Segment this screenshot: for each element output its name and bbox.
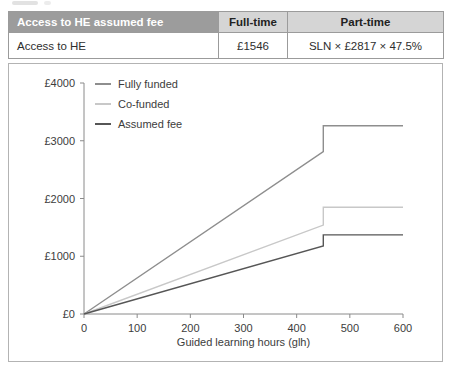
x-tick-label: 500 (341, 322, 359, 334)
line-chart: £0£1000£2000£3000£4000010020030040050060… (9, 64, 442, 361)
x-axis-label: Guided learning hours (glh) (177, 336, 310, 348)
legend-item-assumed-fee: Assumed fee (95, 114, 182, 134)
fee-table: Access to HE assumed fee Full-time Part-… (8, 11, 444, 59)
x-tick-label: 100 (128, 322, 146, 334)
table-title: Access to HE assumed fee (9, 12, 219, 33)
fee-table-header-row: Access to HE assumed fee Full-time Part-… (9, 12, 444, 33)
x-tick-label: 600 (394, 322, 412, 334)
chart-panel: £0£1000£2000£3000£4000010020030040050060… (8, 63, 443, 362)
series-fully-funded (84, 126, 403, 314)
column-header-part-time: Part-time (288, 12, 444, 33)
fully-funded-swatch (95, 83, 111, 85)
cropped-print-artifact (44, 1, 51, 5)
x-tick-label: 400 (287, 322, 305, 334)
y-tick-label: £0 (63, 308, 75, 320)
co-funded-swatch (95, 103, 111, 105)
fee-table-data-row: Access to HE £1546 SLN × £2817 × 47.5% (9, 33, 444, 59)
cropped-print-artifact (12, 1, 38, 5)
legend-item-co-funded: Co-funded (95, 94, 182, 114)
column-header-full-time: Full-time (219, 12, 288, 33)
part-time-fee-formula: SLN × £2817 × 47.5% (288, 33, 444, 59)
x-tick-label: 200 (181, 322, 199, 334)
y-tick-label: £2000 (44, 193, 75, 205)
y-tick-label: £3000 (44, 135, 75, 147)
series-assumed-fee (84, 235, 403, 314)
full-time-fee-value: £1546 (219, 33, 288, 59)
chart-legend: Fully funded Co-funded Assumed fee (95, 74, 182, 134)
assumed-fee-swatch (95, 123, 111, 125)
legend-item-fully-funded: Fully funded (95, 74, 182, 94)
y-tick-label: £4000 (44, 77, 75, 89)
page: Access to HE assumed fee Full-time Part-… (0, 0, 455, 376)
y-tick-label: £1000 (44, 250, 75, 262)
legend-label: Assumed fee (118, 114, 182, 134)
x-tick-label: 0 (81, 322, 87, 334)
x-tick-label: 300 (234, 322, 252, 334)
series-co-funded (84, 207, 403, 314)
row-label: Access to HE (9, 33, 219, 59)
legend-label: Co-funded (118, 94, 169, 114)
legend-label: Fully funded (118, 74, 178, 94)
